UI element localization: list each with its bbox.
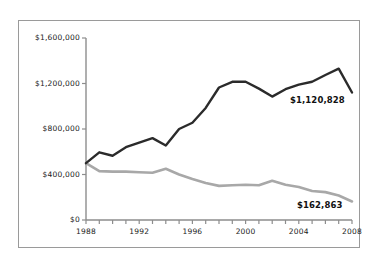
y-axis-tick-label: $1,200,000 bbox=[14, 79, 80, 88]
upper-series-value-label: $1,120,828 bbox=[290, 95, 345, 105]
x-axis-ticks bbox=[86, 220, 352, 224]
axis-lines bbox=[86, 38, 352, 220]
y-axis-tick-label: $0 bbox=[14, 215, 80, 224]
y-axis-tick-label: $400,000 bbox=[14, 170, 80, 179]
x-axis-tick-label: 2004 bbox=[279, 227, 319, 236]
chart-figure: $0$400,000$800,000$1,200,000$1,600,000 1… bbox=[0, 0, 378, 266]
x-axis-tick-label: 2000 bbox=[226, 227, 266, 236]
x-axis-tick-label: 1992 bbox=[119, 227, 159, 236]
upper-series-line bbox=[86, 69, 352, 163]
lower-series-value-label: $162,863 bbox=[297, 200, 342, 210]
x-axis-tick-label: 1996 bbox=[172, 227, 212, 236]
y-axis-tick-label: $1,600,000 bbox=[14, 33, 80, 42]
lower-series-line bbox=[86, 163, 352, 201]
y-axis-tick-label: $800,000 bbox=[14, 124, 80, 133]
x-axis-tick-label: 2008 bbox=[332, 227, 372, 236]
x-axis-tick-label: 1988 bbox=[66, 227, 106, 236]
